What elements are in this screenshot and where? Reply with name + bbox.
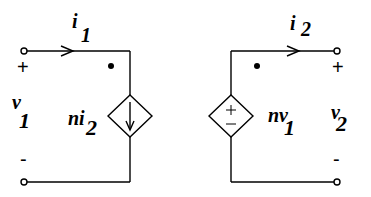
v1-subscript: 1: [19, 108, 30, 133]
circuit-diagram: i 1 + v 1 - ni 2 i 2 + v 2 - nv 1: [0, 0, 371, 197]
dependent-voltage-source-diamond: [209, 95, 253, 137]
port1-plus: +: [17, 56, 29, 78]
left-polarity-dot: [108, 63, 114, 69]
left-bottom-terminal: [21, 179, 27, 185]
nv1-subscript: 1: [284, 115, 295, 140]
ni2-label: ni: [68, 107, 85, 129]
left-top-terminal: [21, 48, 27, 54]
i1-subscript: 1: [81, 24, 91, 46]
i2-subscript: 2: [300, 18, 311, 40]
port2-minus: -: [333, 148, 340, 170]
i2-label: i: [290, 12, 296, 34]
v2-subscript: 2: [335, 111, 347, 136]
right-bottom-terminal: [334, 179, 340, 185]
port1-minus: -: [20, 148, 27, 170]
ni2-subscript: 2: [85, 115, 97, 140]
right-polarity-dot: [254, 63, 260, 69]
right-top-terminal: [334, 48, 340, 54]
port2-plus: +: [332, 56, 344, 78]
i1-label: i: [72, 10, 78, 32]
